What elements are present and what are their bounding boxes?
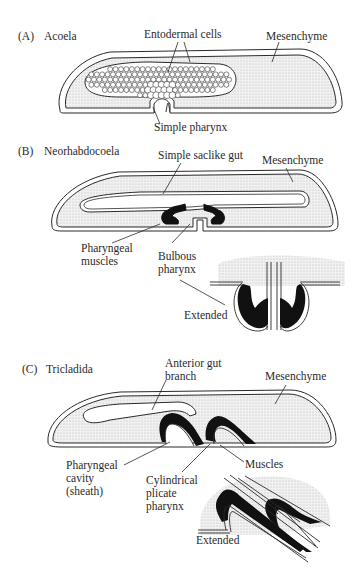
- label-mesenchyme-a: Mesenchyme: [266, 30, 327, 43]
- label-mesenchyme-b: Mesenchyme: [262, 154, 323, 167]
- label-pharyngeal-cavity: Pharyngeal cavity (sheath): [66, 459, 118, 498]
- extended-pharynx-b: [210, 255, 345, 331]
- extended-pharynx-c: [198, 475, 330, 562]
- panel-b-title: Neorhabdocoela: [44, 145, 119, 158]
- label-entodermal-cells: Entodermal cells: [144, 28, 222, 41]
- panel-b-body: [52, 170, 338, 231]
- panel-b-letter: (B): [18, 145, 33, 158]
- label-simple-pharynx: Simple pharynx: [154, 121, 227, 134]
- label-simple-saclike-gut: Simple saclike gut: [158, 149, 243, 162]
- panel-c-title: Tricladida: [46, 363, 93, 376]
- panel-a-letter: (A): [18, 30, 34, 43]
- label-mesenchyme-c: Mesenchyme: [265, 370, 326, 383]
- label-extended-b: Extended: [184, 309, 227, 322]
- panel-a-title: Acoela: [44, 30, 77, 43]
- label-muscles: Muscles: [245, 458, 283, 471]
- label-extended-c: Extended: [196, 534, 239, 547]
- panel-c-letter: (C): [22, 363, 37, 376]
- label-cylindrical-plicate-pharynx: Cylindrical plicate pharynx: [146, 474, 198, 513]
- label-bulbous-pharynx: Bulbous pharynx: [158, 250, 196, 276]
- label-pharyngeal-muscles: Pharyngeal muscles: [81, 242, 133, 268]
- label-anterior-gut-branch: Anterior gut branch: [165, 357, 222, 383]
